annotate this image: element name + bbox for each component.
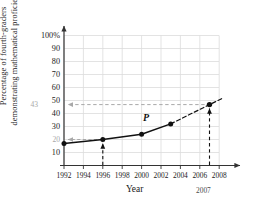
y-tick-label-100: 100% bbox=[22, 31, 60, 40]
chart-container: Percentage of fourth-graders demonstrati… bbox=[0, 0, 261, 208]
data-point-2000 bbox=[139, 132, 144, 137]
x-axis-label: Year bbox=[126, 184, 143, 194]
x-tick-label-2008: 2008 bbox=[205, 171, 233, 180]
y-tick-label-20-highlight: 20 bbox=[22, 135, 60, 144]
y-tick-label-80: 80 bbox=[22, 57, 60, 66]
y-tick-label-30: 30 bbox=[22, 122, 60, 131]
axis-lines bbox=[60, 26, 240, 166]
data-point-1996 bbox=[100, 137, 105, 142]
y-readout-43: 43 bbox=[8, 100, 38, 109]
data-point-2007 bbox=[207, 102, 212, 107]
grid-lines bbox=[64, 36, 219, 166]
data-point-1992 bbox=[62, 141, 67, 146]
y-tick-label-60: 60 bbox=[22, 83, 60, 92]
y-tick-label-90: 90 bbox=[22, 44, 60, 53]
x-readout-2007: 2007 bbox=[196, 186, 211, 195]
y-tick-label-70: 70 bbox=[22, 70, 60, 79]
y-tick-label-10: 10 bbox=[22, 148, 60, 157]
y-axis-label-line-2: demonstrating mathematical proficiency bbox=[10, 0, 21, 131]
data-point-2003 bbox=[168, 121, 173, 126]
y-axis-label-line-1: Percentage of fourth-graders bbox=[0, 0, 10, 131]
y-tick-label-40: 40 bbox=[22, 109, 60, 118]
curve-dashed-extrapolation bbox=[171, 99, 222, 124]
curve-label-P: P bbox=[143, 112, 149, 123]
